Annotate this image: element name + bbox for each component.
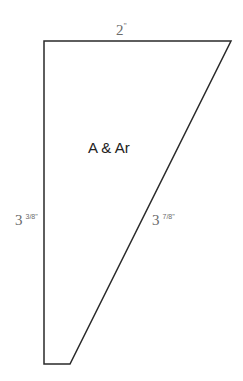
piece-label: A & Ar <box>88 140 130 155</box>
diagonal-dimension: 37/8" <box>152 212 175 228</box>
pattern-piece-outline <box>0 0 243 381</box>
top-dimension: 2" <box>116 22 127 38</box>
left-dimension: 33/8" <box>15 212 38 228</box>
